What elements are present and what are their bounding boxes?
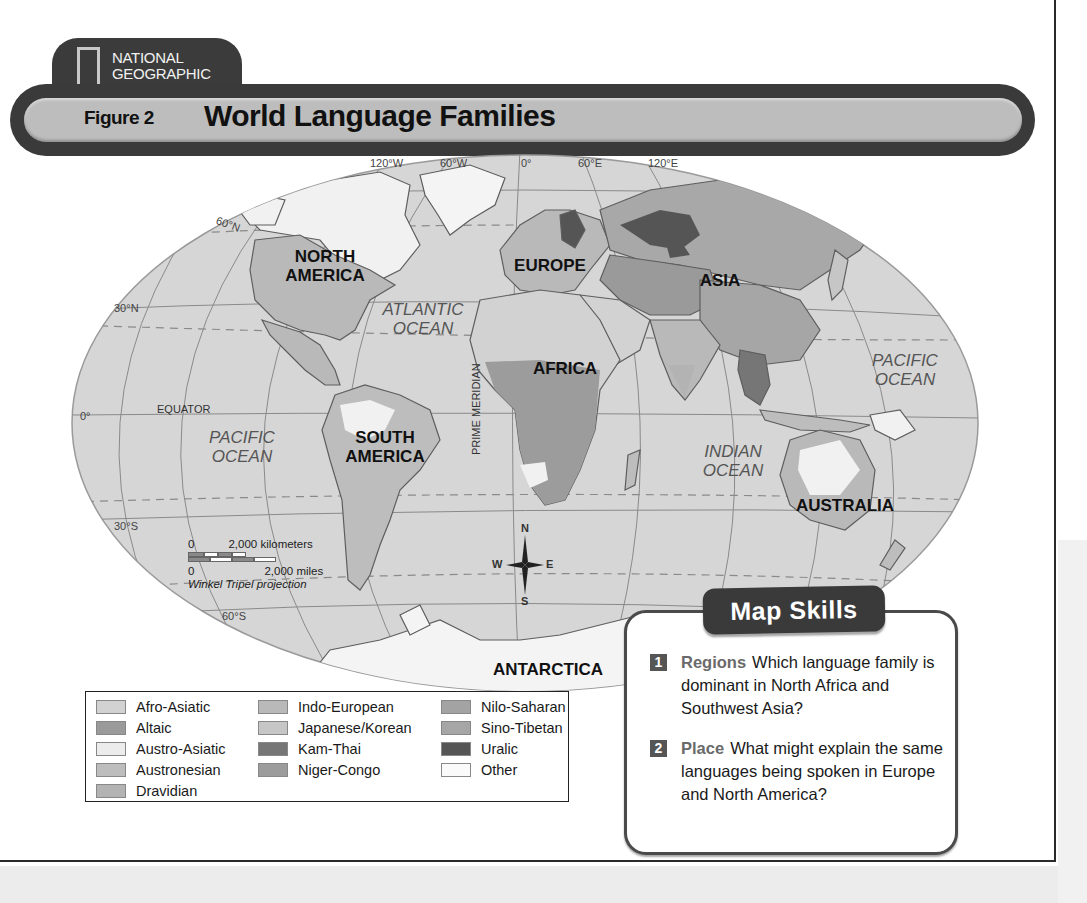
- question-number-badge: 1: [650, 654, 667, 671]
- map-skills-question-1: 1 RegionsWhich language family is domina…: [650, 651, 955, 720]
- latitude-label: 0°: [80, 410, 91, 422]
- scale-mi-zero: 0: [188, 565, 194, 577]
- longitude-label: 120°E: [648, 157, 678, 169]
- legend-item: Austro-Asiatic: [96, 740, 225, 758]
- longitude-label: 60°W: [440, 157, 467, 169]
- legend-swatch: [96, 784, 126, 798]
- longitude-label: 60°E: [578, 157, 602, 169]
- legend-item: Other: [441, 761, 517, 779]
- legend-item: Sino-Tibetan: [441, 719, 563, 737]
- scale-km-label: 2,000 kilometers: [228, 538, 312, 550]
- legend-swatch: [258, 763, 288, 777]
- map-skills-question-2: 2 PlaceWhat might explain the same langu…: [650, 737, 955, 806]
- question-number-badge: 2: [650, 740, 667, 757]
- continent-label-south-america: SOUTH AMERICA: [330, 428, 440, 466]
- continent-label-australia: AUSTRALIA: [785, 496, 905, 515]
- legend-item: Altaic: [96, 719, 171, 737]
- scale-bar-graphic: [188, 552, 348, 564]
- legend-item: Austronesian: [96, 761, 221, 779]
- legend-item: Dravidian: [96, 782, 197, 800]
- map-legend: Afro-Asiatic Altaic Austro-Asiatic Austr…: [85, 691, 569, 802]
- question-keyword: Place: [681, 739, 724, 757]
- projection-label: Winkel Tripel projection: [188, 578, 348, 590]
- legend-swatch: [258, 700, 288, 714]
- latitude-label: 60°S: [222, 610, 246, 622]
- continent-label-asia: ASIA: [690, 271, 750, 290]
- legend-swatch: [258, 742, 288, 756]
- continent-label-antarctica: ANTARCTICA: [483, 660, 613, 679]
- legend-item: Nilo-Saharan: [441, 698, 566, 716]
- legend-swatch: [96, 742, 126, 756]
- latitude-label: 30°S: [114, 520, 138, 532]
- legend-item: Indo-European: [258, 698, 394, 716]
- legend-item: Uralic: [441, 740, 518, 758]
- ocean-label-pacific-east: PACIFIC OCEAN: [855, 351, 955, 389]
- continent-label-europe: EUROPE: [510, 256, 590, 275]
- legend-swatch: [441, 742, 471, 756]
- legend-item: Japanese/Korean: [258, 719, 412, 737]
- legend-item: Afro-Asiatic: [96, 698, 210, 716]
- ocean-label-atlantic: ATLANTIC OCEAN: [368, 300, 478, 338]
- map-skills-box: [624, 610, 958, 855]
- legend-swatch: [441, 763, 471, 777]
- ocean-label-pacific-west: PACIFIC OCEAN: [192, 428, 292, 466]
- map-skills-header: Map Skills: [703, 585, 886, 634]
- ocean-label-indian: INDIAN OCEAN: [683, 442, 783, 480]
- longitude-label: 0°: [521, 157, 532, 169]
- legend-swatch: [96, 700, 126, 714]
- legend-swatch: [441, 700, 471, 714]
- compass-west: W: [492, 558, 502, 570]
- scale-bar: 02,000 kilometers 02,000 miles Winkel Tr…: [188, 538, 348, 590]
- prime-meridian-label: PRIME MERIDIAN: [470, 363, 482, 455]
- compass-east: E: [546, 558, 553, 570]
- legend-swatch: [441, 721, 471, 735]
- legend-item: Niger-Congo: [258, 761, 380, 779]
- continent-label-africa: AFRICA: [525, 359, 605, 378]
- legend-swatch: [96, 763, 126, 777]
- legend-swatch: [96, 721, 126, 735]
- latitude-label: 30°N: [114, 302, 139, 314]
- longitude-label: 120°W: [370, 157, 403, 169]
- legend-swatch: [258, 721, 288, 735]
- compass-north: N: [521, 522, 529, 534]
- compass-south: S: [521, 595, 528, 607]
- question-keyword: Regions: [681, 653, 746, 671]
- scale-km-zero: 0: [188, 538, 194, 550]
- scale-mi-label: 2,000 miles: [264, 565, 323, 577]
- continent-label-north-america: NORTH AMERICA: [270, 247, 380, 285]
- equator-label: EQUATOR: [157, 403, 210, 415]
- legend-item: Kam-Thai: [258, 740, 361, 758]
